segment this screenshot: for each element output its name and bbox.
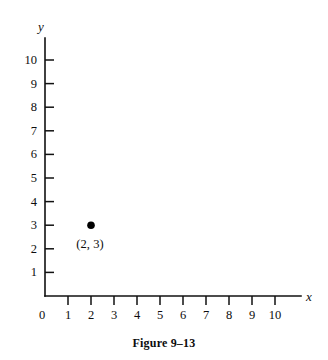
y-tick-label: 6 <box>17 148 37 161</box>
x-tick-label: 4 <box>125 309 149 322</box>
x-axis-ticks <box>68 296 275 305</box>
x-tick-label: 7 <box>194 309 218 322</box>
coordinate-plane-figure: y x 10 9 8 7 6 5 4 3 2 1 0 1 2 3 4 5 6 7… <box>0 0 328 360</box>
x-tick-label: 6 <box>171 309 195 322</box>
y-tick-label: 5 <box>17 172 37 185</box>
x-tick-label: 3 <box>102 309 126 322</box>
plot-canvas <box>0 0 328 360</box>
x-tick-label: 10 <box>263 309 287 322</box>
x-tick-label: 9 <box>240 309 264 322</box>
y-tick-label: 10 <box>17 54 37 67</box>
y-tick-label: 3 <box>17 219 37 232</box>
x-tick-label: 8 <box>217 309 241 322</box>
data-point-marker <box>87 221 95 229</box>
y-tick-label: 1 <box>17 266 37 279</box>
y-tick-label: 9 <box>17 77 37 90</box>
y-tick-label: 4 <box>17 195 37 208</box>
x-tick-label: 1 <box>56 309 80 322</box>
x-tick-label: 0 <box>30 309 54 322</box>
x-tick-label: 2 <box>79 309 103 322</box>
x-tick-label: 5 <box>148 309 172 322</box>
figure-caption: Figure 9–13 <box>0 336 328 351</box>
y-axis-label: y <box>38 20 44 33</box>
y-tick-label: 7 <box>17 125 37 138</box>
y-tick-label: 8 <box>17 101 37 114</box>
y-axis-ticks <box>45 60 54 272</box>
point-coordinate-label: (2, 3) <box>76 238 104 251</box>
x-axis-label: x <box>306 290 312 303</box>
y-tick-label: 2 <box>17 243 37 256</box>
